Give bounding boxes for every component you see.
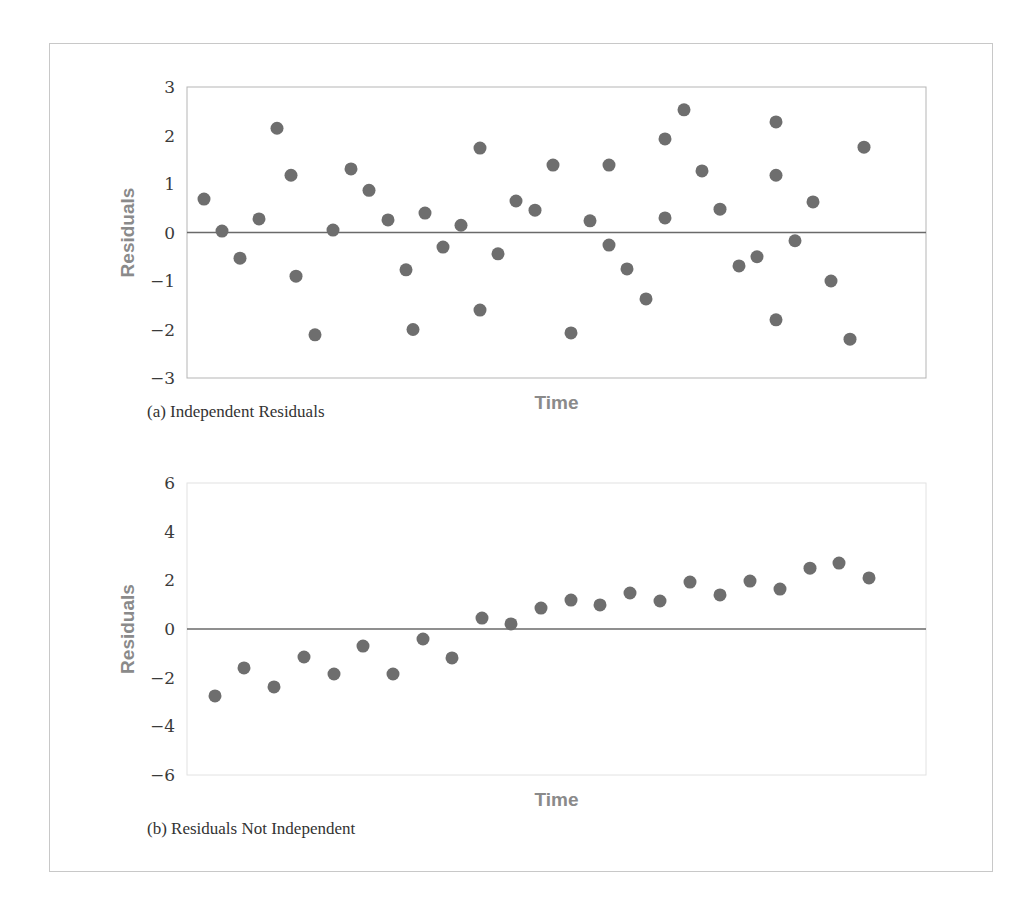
y-tick-label: 3 — [164, 77, 175, 97]
y-tick-label: −6 — [150, 765, 175, 785]
plot-independent-residuals: 3210−1−2−3ResidualsTime — [117, 77, 926, 413]
data-point — [807, 195, 820, 208]
data-point — [505, 617, 518, 630]
y-tick-label: 2 — [164, 126, 175, 146]
data-point — [863, 571, 876, 584]
x-axis-label: Time — [534, 789, 578, 810]
data-point — [825, 275, 838, 288]
data-point — [584, 214, 597, 227]
data-point — [238, 661, 251, 674]
data-point — [603, 159, 616, 172]
y-axis-label: Residuals — [117, 188, 138, 278]
data-point — [400, 263, 413, 276]
data-point — [387, 668, 400, 681]
y-tick-label: −3 — [150, 368, 175, 388]
y-tick-label: −2 — [150, 320, 175, 340]
data-point — [492, 247, 505, 260]
data-point — [268, 680, 281, 693]
data-point — [547, 159, 560, 172]
data-point — [345, 162, 358, 175]
data-point — [253, 212, 266, 225]
data-point — [621, 262, 634, 275]
data-point — [198, 193, 211, 206]
data-point — [510, 194, 523, 207]
data-point — [328, 668, 341, 681]
data-point — [476, 612, 489, 625]
data-point — [714, 203, 727, 216]
y-tick-label: 0 — [164, 223, 175, 243]
data-point — [684, 576, 697, 589]
data-point — [357, 640, 370, 653]
y-tick-label: 2 — [164, 570, 175, 590]
data-point — [327, 224, 340, 237]
y-tick-label: 0 — [164, 619, 175, 639]
data-point — [751, 250, 764, 263]
data-point — [789, 234, 802, 247]
data-point — [774, 583, 787, 596]
y-tick-label: 6 — [164, 473, 175, 493]
data-point — [770, 169, 783, 182]
data-point — [770, 115, 783, 128]
data-point — [654, 595, 667, 608]
y-tick-label: 4 — [164, 522, 175, 542]
data-point — [455, 219, 468, 232]
data-point — [770, 313, 783, 326]
caption-b: (b) Residuals Not Independent — [147, 819, 355, 839]
y-tick-label: −1 — [150, 271, 175, 291]
caption-a: (a) Independent Residuals — [147, 402, 325, 422]
y-tick-label: −4 — [150, 716, 175, 736]
data-point — [733, 259, 746, 272]
data-point — [640, 292, 653, 305]
data-point — [437, 241, 450, 254]
x-axis-label: Time — [534, 392, 578, 413]
data-point — [696, 164, 709, 177]
data-point — [216, 225, 229, 238]
data-point — [474, 142, 487, 155]
data-point — [209, 689, 222, 702]
data-point — [446, 651, 459, 664]
data-point — [234, 252, 247, 265]
data-point — [858, 141, 871, 154]
data-point — [678, 103, 691, 116]
data-point — [535, 602, 548, 615]
data-point — [624, 586, 637, 599]
data-point — [419, 207, 432, 220]
plot-residuals-not-independent: 6420−2−4−6ResidualsTime — [117, 473, 926, 810]
data-point — [474, 304, 487, 317]
data-point — [290, 270, 303, 283]
data-point — [363, 184, 376, 197]
data-point — [833, 557, 846, 570]
residual-plots: 3210−1−2−3ResidualsTime 6420−2−4−6Residu… — [0, 0, 1036, 913]
data-point — [309, 328, 322, 341]
data-point — [603, 239, 616, 252]
data-point — [298, 650, 311, 663]
data-point — [804, 562, 817, 575]
data-point — [529, 204, 542, 217]
data-point — [417, 632, 430, 645]
data-point — [382, 213, 395, 226]
data-point — [565, 594, 578, 607]
data-point — [271, 122, 284, 135]
data-point — [714, 588, 727, 601]
data-point — [407, 323, 420, 336]
y-tick-label: −2 — [150, 668, 175, 688]
y-axis-label: Residuals — [117, 584, 138, 674]
data-point — [659, 132, 672, 145]
data-point — [285, 169, 298, 182]
data-point — [844, 333, 857, 346]
data-point — [744, 575, 757, 588]
data-point — [594, 598, 607, 611]
data-point — [659, 211, 672, 224]
y-tick-label: 1 — [164, 174, 175, 194]
data-point — [565, 326, 578, 339]
